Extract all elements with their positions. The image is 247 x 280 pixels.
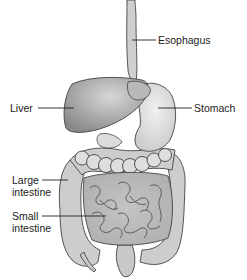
label-small-intestine-line1: Small <box>12 210 51 222</box>
label-small-intestine-line2: intestine <box>12 222 51 234</box>
label-small-intestine: Small intestine <box>12 210 51 234</box>
label-stomach-text: Stomach <box>194 102 235 114</box>
esophagus <box>127 0 137 82</box>
label-large-intestine-line2: intestine <box>12 186 51 198</box>
label-large-intestine-line1: Large <box>12 174 51 186</box>
label-liver: Liver <box>10 102 33 114</box>
liver <box>64 77 150 132</box>
small-intestine <box>83 172 172 245</box>
label-esophagus-text: Esophagus <box>158 34 211 46</box>
label-liver-text: Liver <box>10 102 33 114</box>
label-large-intestine: Large intestine <box>12 174 51 198</box>
label-esophagus: Esophagus <box>158 34 211 46</box>
duodenum <box>97 133 122 148</box>
label-stomach: Stomach <box>194 102 235 114</box>
